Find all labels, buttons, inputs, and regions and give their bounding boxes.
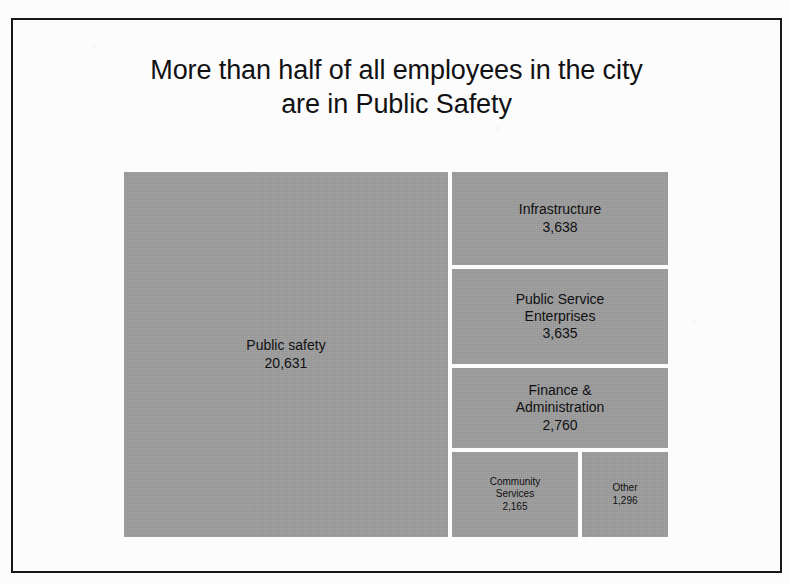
tile-label-line-2: Enterprises [516,308,605,325]
tile-label: Infrastructure [519,201,601,218]
tile-label-line-2: Services [490,488,541,500]
tile-label-line-1: Finance & [516,382,605,399]
treemap-tile-public-service-enterprises[interactable]: Public Service Enterprises 3,635 [452,269,668,364]
treemap-tile-other[interactable]: Other 1,296 [582,452,668,537]
tile-value: 3,635 [516,325,605,342]
treemap-tile-public-safety[interactable]: Public safety 20,631 [124,172,448,537]
treemap-tile-infrastructure[interactable]: Infrastructure 3,638 [452,172,668,265]
slide-frame: More than half of all employees in the c… [11,18,782,573]
treemap-tile-finance-administration[interactable]: Finance & Administration 2,760 [452,368,668,448]
tile-value: 1,296 [612,495,637,507]
tile-value: 2,760 [516,417,605,434]
tile-label: Other [612,482,637,494]
page-title-line-2: are in Public Safety [13,87,780,121]
treemap-tile-community-services[interactable]: Community Services 2,165 [452,452,578,537]
tile-label-line-2: Administration [516,399,605,416]
tile-value: 2,165 [490,501,541,513]
tile-value: 20,631 [246,355,325,372]
tile-label-line-1: Community [490,476,541,488]
tile-label: Public safety [246,337,325,354]
treemap-chart: Public safety 20,631 Infrastructure 3,63… [124,172,668,537]
tile-value: 3,638 [519,219,601,236]
page-title-line-1: More than half of all employees in the c… [13,53,780,87]
page-title: More than half of all employees in the c… [13,53,780,121]
tile-label-line-1: Public Service [516,291,605,308]
